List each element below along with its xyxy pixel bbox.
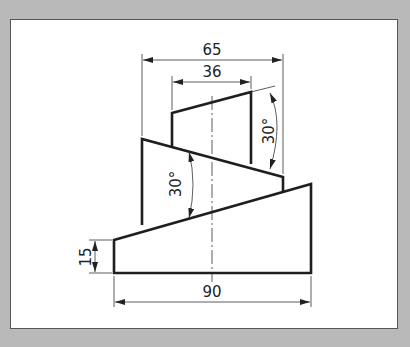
- top-block: [172, 92, 251, 164]
- angle-arc-middle: [189, 152, 193, 218]
- dim-label-65: 65: [202, 41, 221, 59]
- angle-label-top: 30°: [260, 118, 278, 145]
- dim-label-15: 15: [77, 247, 95, 266]
- angle-label-middle: 30°: [167, 171, 185, 198]
- dim-label-90: 90: [202, 283, 221, 301]
- technical-drawing: 65 36 30° 30° 15 90: [0, 0, 410, 347]
- dim-label-36: 36: [202, 63, 221, 81]
- angle-ref-line-top: [251, 86, 275, 92]
- base-wedge: [114, 184, 311, 273]
